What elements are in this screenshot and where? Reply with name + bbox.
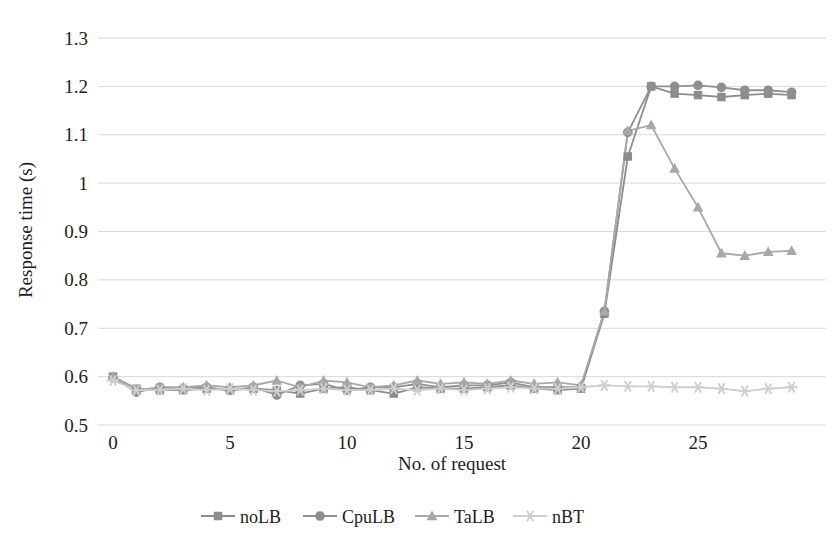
data-point-marker-star bbox=[786, 382, 798, 392]
data-point-marker-triangle bbox=[716, 248, 727, 258]
legend-label-noLB: noLB bbox=[240, 507, 281, 527]
series-lines-group bbox=[113, 85, 792, 395]
x-tick-label: 25 bbox=[689, 432, 708, 453]
y-axis-tick-labels: 0.50.60.70.80.911.11.21.3 bbox=[64, 28, 88, 436]
data-point-marker-circle bbox=[693, 81, 703, 91]
data-point-marker-star bbox=[524, 511, 536, 521]
y-tick-label: 0.5 bbox=[64, 415, 88, 436]
legend: noLBCpuLBTaLBnBT bbox=[201, 507, 584, 527]
legend-item-CpuLB[interactable]: CpuLB bbox=[303, 507, 395, 527]
series-markers-group bbox=[107, 81, 798, 400]
legend-label-TaLB: TaLB bbox=[454, 507, 495, 527]
data-point-marker-square bbox=[717, 93, 726, 102]
x-tick-label: 10 bbox=[338, 432, 357, 453]
series-line-TaLB bbox=[113, 125, 792, 390]
data-point-marker-star bbox=[622, 381, 634, 391]
y-tick-label: 1.1 bbox=[64, 124, 88, 145]
data-point-marker-circle bbox=[740, 85, 750, 95]
data-point-marker-triangle bbox=[552, 377, 563, 387]
data-point-marker-star bbox=[692, 382, 704, 392]
series-markers-CpuLB bbox=[108, 81, 796, 400]
y-tick-label: 0.9 bbox=[64, 221, 88, 242]
data-point-marker-star bbox=[645, 381, 657, 391]
x-axis-title: No. of request bbox=[398, 453, 507, 474]
data-point-marker-square bbox=[694, 91, 703, 100]
data-point-marker-triangle bbox=[459, 377, 470, 387]
y-tick-label: 0.8 bbox=[64, 269, 88, 290]
x-tick-label: 5 bbox=[225, 432, 235, 453]
series-markers-noLB bbox=[109, 82, 796, 398]
data-point-marker-triangle bbox=[693, 202, 704, 212]
y-tick-label: 0.7 bbox=[64, 318, 88, 339]
data-point-marker-circle bbox=[315, 511, 325, 521]
chart-page: 0.50.60.70.80.911.11.21.3 0510152025 Res… bbox=[0, 0, 835, 556]
series-line-CpuLB bbox=[113, 85, 792, 395]
data-point-marker-triangle bbox=[646, 119, 657, 129]
series-markers-TaLB bbox=[108, 119, 797, 394]
x-tick-label: 0 bbox=[108, 432, 118, 453]
series-line-noLB bbox=[113, 86, 792, 393]
y-tick-label: 1.3 bbox=[64, 28, 88, 49]
y-tick-label: 1 bbox=[79, 173, 89, 194]
x-tick-label: 20 bbox=[572, 432, 591, 453]
legend-item-TaLB[interactable]: TaLB bbox=[415, 507, 495, 527]
data-point-marker-square bbox=[624, 152, 633, 161]
response-time-line-chart: 0.50.60.70.80.911.11.21.3 0510152025 Res… bbox=[0, 0, 835, 556]
data-point-marker-star bbox=[669, 382, 681, 392]
y-axis-title: Response time (s) bbox=[15, 162, 37, 298]
data-point-marker-circle bbox=[646, 82, 656, 92]
data-point-marker-circle bbox=[787, 87, 797, 97]
data-point-marker-star bbox=[715, 384, 727, 394]
legend-label-nBT: nBT bbox=[552, 507, 584, 527]
legend-item-noLB[interactable]: noLB bbox=[201, 507, 281, 527]
data-point-marker-square bbox=[214, 512, 223, 521]
legend-item-nBT[interactable]: nBT bbox=[513, 507, 584, 527]
data-point-marker-star bbox=[598, 380, 610, 390]
data-point-marker-circle bbox=[670, 82, 680, 92]
data-point-marker-star bbox=[762, 384, 774, 394]
x-tick-label: 15 bbox=[455, 432, 474, 453]
legend-label-CpuLB: CpuLB bbox=[342, 507, 395, 527]
data-point-marker-star bbox=[739, 386, 751, 396]
data-point-marker-circle bbox=[763, 85, 773, 95]
y-tick-label: 0.6 bbox=[64, 366, 88, 387]
data-point-marker-triangle bbox=[669, 163, 680, 173]
x-axis-tick-labels: 0510152025 bbox=[108, 432, 707, 453]
y-tick-label: 1.2 bbox=[64, 76, 88, 97]
data-point-marker-circle bbox=[717, 83, 727, 93]
